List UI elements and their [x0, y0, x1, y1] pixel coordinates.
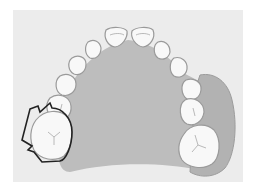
tooth-canine-right [170, 58, 187, 78]
tooth-lateral-left [86, 40, 101, 58]
dental-arch-svg [0, 0, 262, 189]
dental-arch-figure [0, 0, 262, 189]
tooth-premolar1-right [182, 79, 201, 100]
tooth-molar-left [31, 111, 72, 159]
tooth-premolar2-right [180, 99, 204, 125]
tooth-lateral-right [154, 41, 170, 59]
tooth-premolar1-left [56, 74, 76, 95]
tooth-canine-left [69, 56, 86, 74]
